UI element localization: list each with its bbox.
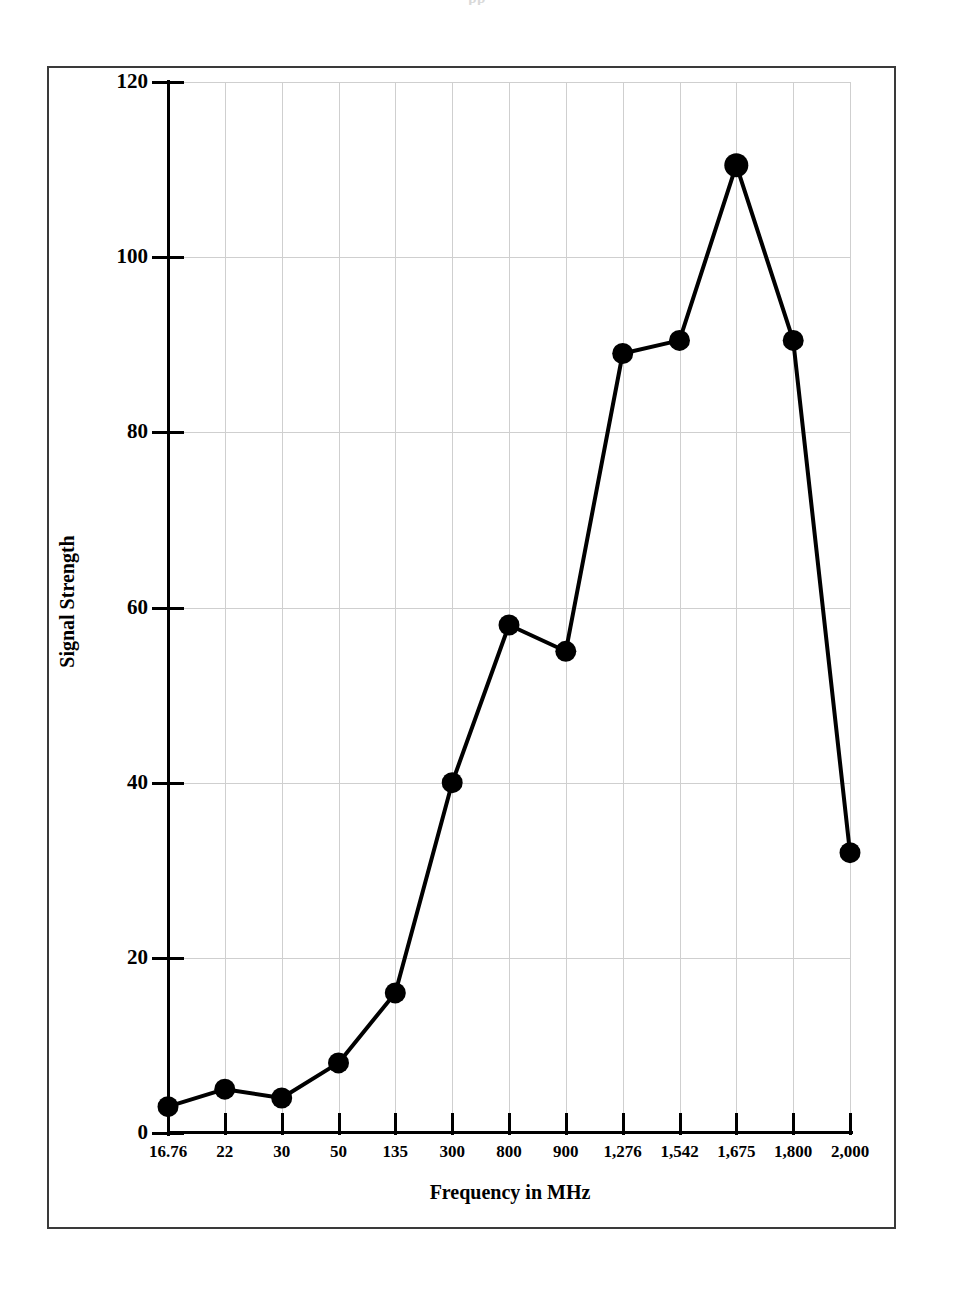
y-axis-tick-label: 60 — [88, 597, 148, 618]
y-axis-tick-label: 120 — [88, 71, 148, 92]
x-axis-tick-label: 2,000 — [805, 1143, 895, 1160]
gridline-vertical — [680, 82, 681, 1133]
x-axis-tick — [849, 1113, 852, 1135]
y-axis-title: Signal Strength — [56, 502, 79, 702]
x-axis-tick — [338, 1113, 341, 1135]
x-axis-tick — [281, 1113, 284, 1135]
gridline-vertical — [225, 82, 226, 1133]
page-top-text-fragment: pp — [0, 0, 954, 5]
gridline-vertical — [566, 82, 567, 1133]
x-axis-tick — [394, 1113, 397, 1135]
y-axis-tick — [152, 782, 184, 785]
gridline-vertical — [623, 82, 624, 1133]
gridline-vertical — [736, 82, 737, 1133]
x-axis-tick — [622, 1113, 625, 1135]
gridline-vertical — [339, 82, 340, 1133]
y-axis-tick — [152, 607, 184, 610]
x-axis-tick — [679, 1113, 682, 1135]
x-axis-title: Frequency in MHz — [167, 1181, 853, 1204]
y-axis-tick — [152, 81, 184, 84]
y-axis-tick-label: 100 — [88, 246, 148, 267]
gridline-vertical — [452, 82, 453, 1133]
gridline-vertical — [509, 82, 510, 1133]
y-axis-tick-label: 80 — [88, 421, 148, 442]
y-axis-tick-label: 40 — [88, 772, 148, 793]
x-axis-tick — [508, 1113, 511, 1135]
gridline-vertical — [395, 82, 396, 1133]
gridline-vertical — [282, 82, 283, 1133]
plot-area — [168, 82, 850, 1133]
x-axis-tick — [451, 1113, 454, 1135]
gridline-vertical — [793, 82, 794, 1133]
y-axis-tick — [152, 957, 184, 960]
y-axis-tick — [152, 256, 184, 259]
y-axis-tick — [152, 431, 184, 434]
gridline-vertical — [850, 82, 851, 1133]
y-axis-tick-label: 0 — [88, 1122, 148, 1143]
x-axis-tick — [224, 1113, 227, 1135]
x-axis-tick — [735, 1113, 738, 1135]
x-axis-tick — [565, 1113, 568, 1135]
x-axis-tick — [167, 1113, 170, 1135]
y-axis-tick-label: 20 — [88, 947, 148, 968]
x-axis-tick — [792, 1113, 795, 1135]
